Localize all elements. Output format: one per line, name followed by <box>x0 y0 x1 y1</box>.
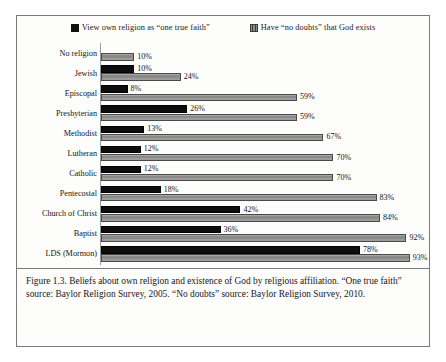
bar-group-no-doubts: 70% <box>101 154 351 161</box>
category-label-lds-mormon: LDS (Mormon) <box>17 249 97 258</box>
chart-row: No religion10% <box>17 43 429 63</box>
row-bars: 42%84% <box>101 204 425 224</box>
bar-no-doubts <box>101 174 333 181</box>
legend-label-no-doubts: Have “no doubts” that God exists <box>261 23 376 32</box>
row-bars: 10% <box>101 43 425 63</box>
bar-group-no-doubts: 83% <box>101 194 394 201</box>
bar-no-doubts <box>101 254 410 261</box>
bar-value-label: 12% <box>144 145 159 153</box>
bar-one-true-faith <box>101 226 221 233</box>
bar-one-true-faith <box>101 146 141 153</box>
bar-no-doubts <box>101 134 323 141</box>
row-bars: 12%70% <box>101 143 425 163</box>
bar-value-label: 67% <box>326 133 341 141</box>
chart-row: Episcopal8%59% <box>17 83 429 103</box>
chart-row: Methodist13%67% <box>17 123 429 143</box>
category-label-church-of-christ: Church of Christ <box>17 209 97 218</box>
bar-group-no-doubts: 24% <box>101 73 198 80</box>
row-bars: 26%59% <box>101 103 425 123</box>
bar-group-no-doubts: 92% <box>101 234 424 241</box>
category-label-episcopal: Episcopal <box>17 89 97 98</box>
row-bars: 12%70% <box>101 164 425 184</box>
category-label-pentecostal: Pentecostal <box>17 189 97 198</box>
chart-row: Baptist36%92% <box>17 224 429 244</box>
row-bars: 8%59% <box>101 83 425 103</box>
bar-group-no-doubts: 84% <box>101 214 398 221</box>
bar-value-label: 42% <box>243 206 258 214</box>
bar-group-one-true-faith: 18% <box>101 186 178 193</box>
chart-row: Lutheran12%70% <box>17 143 429 163</box>
bar-value-label: 59% <box>300 113 315 121</box>
bar-group-no-doubts: 70% <box>101 174 351 181</box>
category-label-lutheran: Lutheran <box>17 149 97 158</box>
category-label-baptist: Baptist <box>17 229 97 238</box>
bar-value-label: 18% <box>164 186 179 194</box>
bar-group-no-doubts: 10% <box>101 53 152 60</box>
bar-one-true-faith <box>101 65 134 72</box>
chart-row: Church of Christ42%84% <box>17 204 429 224</box>
chart-row: Catholic12%70% <box>17 164 429 184</box>
bar-group-one-true-faith: 12% <box>101 146 159 153</box>
chart-row: Pentecostal18%83% <box>17 184 429 204</box>
bar-one-true-faith <box>101 206 240 213</box>
bar-value-label: 13% <box>147 125 162 133</box>
bar-no-doubts <box>101 53 134 60</box>
caption-divider <box>17 268 429 269</box>
bar-group-one-true-faith: 78% <box>101 246 378 253</box>
bar-group-one-true-faith: 42% <box>101 206 258 213</box>
bar-value-label: 10% <box>137 53 152 61</box>
bar-group-no-doubts: 59% <box>101 114 315 121</box>
legend-entry-one-true-faith: View own religion as “one true faith” <box>71 23 210 32</box>
bar-group-one-true-faith: 12% <box>101 166 159 173</box>
bar-value-label: 83% <box>380 194 395 202</box>
chart-rows: No religion10%Jewish10%24%Episcopal8%59%… <box>17 43 429 264</box>
legend-entry-no-doubts: Have “no doubts” that God exists <box>250 23 376 32</box>
bar-value-label: 26% <box>190 105 205 113</box>
bar-value-label: 93% <box>413 254 428 262</box>
bar-one-true-faith <box>101 85 128 92</box>
row-bars: 78%93% <box>101 244 425 264</box>
chart-row: LDS (Mormon)78%93% <box>17 244 429 264</box>
bar-group-one-true-faith: 10% <box>101 65 152 72</box>
category-label-no-religion: No religion <box>17 49 97 58</box>
figure-caption: Figure 1.3. Beliefs about own religion a… <box>26 275 421 301</box>
bar-group-one-true-faith: 13% <box>101 126 162 133</box>
bar-no-doubts <box>101 214 380 221</box>
bar-no-doubts <box>101 94 297 101</box>
category-label-catholic: Catholic <box>17 169 97 178</box>
bar-one-true-faith <box>101 126 144 133</box>
bar-value-label: 59% <box>300 93 315 101</box>
black-square-swatch-icon <box>71 24 79 32</box>
bar-value-label: 10% <box>137 65 152 73</box>
bar-value-label: 70% <box>336 174 351 182</box>
bar-value-label: 84% <box>383 214 398 222</box>
bar-one-true-faith <box>101 166 141 173</box>
bar-group-one-true-faith: 36% <box>101 226 238 233</box>
chart-plot-area: No religion10%Jewish10%24%Episcopal8%59%… <box>17 43 429 265</box>
bar-value-label: 8% <box>131 85 142 93</box>
bar-no-doubts <box>101 194 377 201</box>
bar-value-label: 24% <box>184 73 199 81</box>
row-bars: 36%92% <box>101 224 425 244</box>
chart-row: Jewish10%24% <box>17 63 429 83</box>
bar-one-true-faith <box>101 105 187 112</box>
category-label-methodist: Methodist <box>17 129 97 138</box>
bar-one-true-faith <box>101 246 360 253</box>
category-label-presbyterian: Presbyterian <box>17 109 97 118</box>
bar-group-no-doubts: 67% <box>101 134 341 141</box>
row-bars: 18%83% <box>101 184 425 204</box>
bar-value-label: 78% <box>363 246 378 254</box>
chart-legend: View own religion as “one true faith” Ha… <box>17 23 429 32</box>
bar-no-doubts <box>101 114 297 121</box>
bar-value-label: 12% <box>144 165 159 173</box>
bar-no-doubts <box>101 154 333 161</box>
figure-container: View own religion as “one true faith” Ha… <box>16 15 430 347</box>
bar-value-label: 70% <box>336 154 351 162</box>
bar-no-doubts <box>101 73 181 80</box>
bar-group-no-doubts: 93% <box>101 254 427 261</box>
bar-no-doubts <box>101 234 406 241</box>
row-bars: 13%67% <box>101 123 425 143</box>
bar-one-true-faith <box>101 186 161 193</box>
bar-group-no-doubts: 59% <box>101 94 315 101</box>
row-bars: 10%24% <box>101 63 425 83</box>
